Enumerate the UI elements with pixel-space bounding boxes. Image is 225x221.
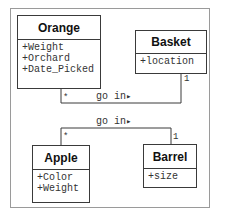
class-name: Orange bbox=[18, 16, 100, 40]
class-orange: Orange +Weight +Orchard +Date_Picked bbox=[17, 15, 101, 89]
attribute: +Color bbox=[37, 172, 85, 183]
attribute: +size bbox=[148, 171, 192, 182]
class-barrel: Barrel +size bbox=[143, 144, 197, 188]
attribute: +Weight bbox=[22, 42, 96, 53]
attribute: +location bbox=[140, 56, 202, 67]
attribute: +Orchard bbox=[22, 53, 96, 64]
attribute-list: +location bbox=[136, 54, 206, 69]
class-name: Barrel bbox=[144, 145, 196, 169]
attribute: +Date_Picked bbox=[22, 64, 96, 75]
association-label: go in▸ bbox=[96, 117, 131, 127]
multiplicity-star: * bbox=[63, 133, 68, 142]
attribute-list: +Color +Weight bbox=[33, 170, 89, 196]
class-name: Apple bbox=[33, 146, 89, 170]
multiplicity-one: 1 bbox=[173, 133, 178, 142]
attribute: +Weight bbox=[37, 183, 85, 194]
class-apple: Apple +Color +Weight bbox=[32, 145, 90, 203]
multiplicity-star: * bbox=[63, 94, 68, 103]
class-basket: Basket +location bbox=[135, 30, 207, 74]
attribute-list: +Weight +Orchard +Date_Picked bbox=[18, 40, 100, 77]
direction-arrow-icon: ▸ bbox=[126, 92, 131, 102]
multiplicity-one: 1 bbox=[184, 75, 189, 84]
class-name: Basket bbox=[136, 31, 206, 54]
attribute-list: +size bbox=[144, 169, 196, 184]
direction-arrow-icon: ▸ bbox=[126, 117, 131, 127]
association-label: go in▸ bbox=[96, 92, 131, 102]
